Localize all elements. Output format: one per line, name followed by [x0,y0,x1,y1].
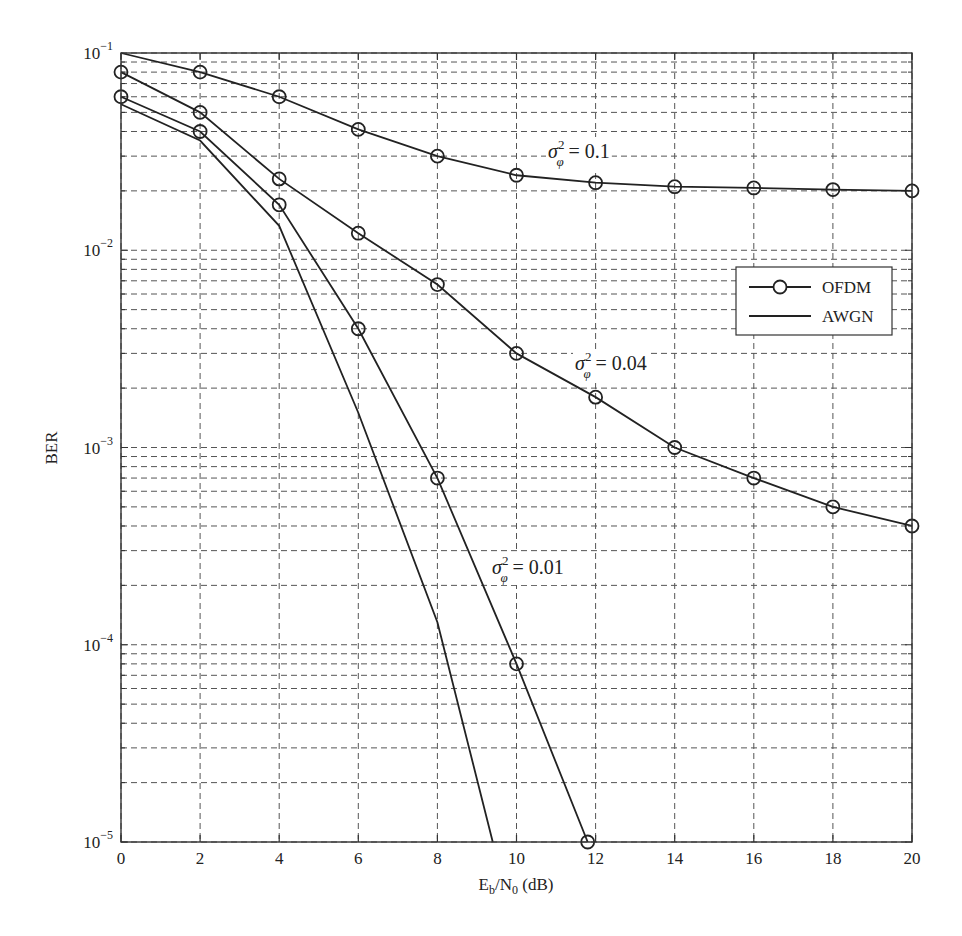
legend: OFDMAWGN [736,267,892,335]
x-tick-label: 6 [354,849,363,868]
x-tick-label: 16 [745,849,762,868]
x-tick-label: 4 [275,849,284,868]
x-tick-label: 8 [433,849,442,868]
x-tick-label: 0 [117,849,126,868]
x-tick-label: 2 [196,849,205,868]
legend-label: OFDM [822,278,871,297]
x-tick-label: 18 [824,849,841,868]
x-tick-label: 12 [587,849,604,868]
x-tick-label: 14 [666,849,684,868]
x-tick-label: 20 [904,849,921,868]
legend-label: AWGN [822,307,874,326]
legend-circle-marker [774,281,787,294]
x-tick-label: 10 [508,849,525,868]
y-axis-label: BER [42,431,61,465]
ber-chart: 02468101214161820 10−110−210−310−410−5 σ… [0,0,962,936]
